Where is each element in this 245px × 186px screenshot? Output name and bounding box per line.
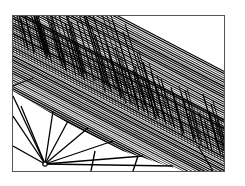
halftone-illustration: [13, 16, 224, 171]
illustration-frame: [12, 15, 225, 172]
convergence-point: [43, 162, 47, 166]
